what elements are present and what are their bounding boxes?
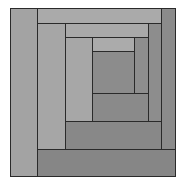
ring1-left-strip xyxy=(10,8,38,177)
ring3-right-strip xyxy=(134,37,149,94)
ring2-bottom-strip xyxy=(65,121,162,150)
ring2-right-strip xyxy=(148,23,162,122)
ring1-top-strip xyxy=(37,8,162,24)
ring2-top-strip xyxy=(65,23,149,38)
ring3-bottom-strip xyxy=(92,93,149,122)
ring3-left-strip xyxy=(65,37,93,122)
ring1-bottom-strip xyxy=(37,149,176,177)
center-square xyxy=(92,51,135,94)
ring3-top-strip xyxy=(92,37,135,52)
log-cabin-block xyxy=(0,0,181,177)
ring1-right-strip xyxy=(161,8,176,150)
ring2-left-strip xyxy=(37,23,66,150)
